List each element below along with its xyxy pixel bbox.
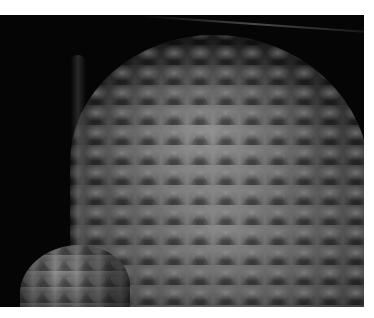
photo bbox=[0, 15, 364, 307]
scaled-limb bbox=[20, 245, 130, 307]
light-glint bbox=[140, 15, 364, 33]
limb-scale-pattern bbox=[20, 245, 130, 307]
